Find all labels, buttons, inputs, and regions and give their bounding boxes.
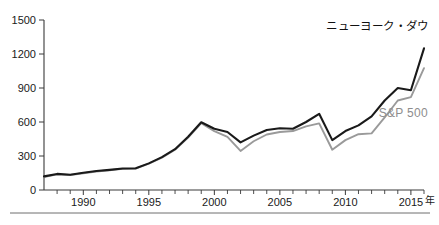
x-tick-label-2015: 2015 [399,196,423,208]
x-tick-label-2005: 2005 [268,196,292,208]
x-tick-label-2010: 2010 [333,196,357,208]
y-tick-label-600: 600 [18,116,36,128]
series-label-dow: ニューヨーク・ダウ [326,19,429,32]
y-tick-label-900: 900 [18,82,36,94]
x-tick-label-1995: 1995 [137,196,161,208]
y-tick-label-300: 300 [18,150,36,162]
chart-container: 030060090012001500 199019952000200520102… [0,0,439,225]
y-tick-label-0: 0 [30,184,36,196]
chart-background [0,0,439,225]
y-tick-label-1500: 1500 [12,14,36,26]
y-tick-label-1200: 1200 [12,48,36,60]
x-tick-label-2000: 2000 [202,196,226,208]
line-chart: 030060090012001500 199019952000200520102… [0,0,439,225]
series-label-sp500: S&P 500 [379,106,428,120]
x-axis-unit-label: 年 [425,194,435,206]
x-tick-label-1990: 1990 [71,196,95,208]
